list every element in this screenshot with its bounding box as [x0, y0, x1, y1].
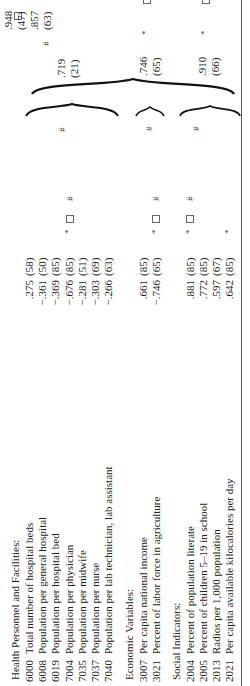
row-r: .661 — [137, 280, 150, 314]
row-n: (85) — [197, 258, 210, 276]
box-marker-icon — [186, 215, 194, 223]
hash-marker: # — [184, 197, 197, 202]
row-r: −.369 — [49, 280, 62, 314]
section-title-health: Health Personnel and Facilities: — [9, 540, 22, 680]
row-label: Population per lab technician, lab assis… — [102, 466, 115, 654]
row-n: (65) — [150, 258, 163, 276]
final-n1: (47) — [15, 12, 28, 30]
row-label: Total number of hospital beds — [23, 523, 36, 654]
box-marker-icon — [152, 215, 160, 223]
row-n: (67) — [210, 258, 223, 276]
row-r: −.361 — [36, 280, 49, 314]
row-n: (50) — [36, 258, 49, 276]
hash-marker: # — [64, 197, 77, 202]
row-code: 6008 — [36, 660, 49, 686]
row-code: 2004 — [184, 660, 197, 686]
row-label: Per capita national income — [137, 537, 150, 654]
row-label: Percent of labor force in agriculture — [150, 497, 163, 654]
row-r: −.746 — [150, 280, 163, 314]
row-n: (63) — [102, 258, 115, 276]
row-code: 7004 — [63, 660, 76, 686]
brace-health — [24, 98, 120, 118]
significance-star: * — [183, 230, 196, 235]
row-r: .642 — [223, 280, 236, 314]
row-n: (85) — [137, 258, 150, 276]
row-code: 2021 — [223, 660, 236, 686]
row-label: Population per general hospital — [36, 517, 49, 654]
hash-marker: # — [190, 127, 203, 132]
row-r: −.676 — [63, 280, 76, 314]
row-label: Population per nurse — [89, 563, 102, 654]
row-n: (85) — [63, 258, 76, 276]
row-n: (85) — [223, 258, 236, 276]
significance-star: * — [139, 31, 152, 36]
row-r: −.266 — [102, 280, 115, 314]
row-label: Per capita available kilocalories per da… — [223, 478, 236, 654]
row-label: Population per physician — [63, 545, 76, 654]
brace-overall — [30, 74, 236, 96]
row-code: 6019 — [49, 660, 62, 686]
row-n: (58) — [23, 258, 36, 276]
row-code: 2005 — [197, 660, 210, 686]
box-marker-icon — [143, 0, 151, 4]
brace-social — [178, 100, 242, 118]
row-r: .597 — [210, 280, 223, 314]
table-bottom-rule — [241, 0, 242, 686]
row-code: 3007 — [137, 660, 150, 686]
row-code: 6000 — [23, 660, 36, 686]
row-n: (51) — [76, 258, 89, 276]
row-r: .275 — [23, 280, 36, 314]
section-title-economic: Economic Variables: — [123, 589, 136, 680]
row-r: .772 — [197, 280, 210, 314]
row-r: .881 — [184, 280, 197, 314]
final-n2: (63) — [41, 12, 54, 30]
significance-star: * — [222, 230, 235, 235]
row-n: (85) — [184, 258, 197, 276]
row-label: Percent of population literate — [184, 526, 197, 654]
box-marker-icon — [66, 215, 74, 223]
row-r: −.303 — [89, 280, 102, 314]
row-label: Percent of children 5–19 in school — [197, 503, 210, 654]
final-r2: .857 — [28, 11, 41, 30]
row-r: −.281 — [76, 280, 89, 314]
row-label: Radios per 1,000 population — [210, 529, 223, 654]
row-code: 7037 — [89, 660, 102, 686]
row-code: 3021 — [150, 660, 163, 686]
row-n: (85) — [49, 258, 62, 276]
hash-marker: # — [150, 197, 163, 202]
row-code: 7040 — [102, 660, 115, 686]
hash-marker: # — [143, 127, 156, 132]
hash-marker: # — [56, 128, 69, 133]
row-label: Population per midwife — [76, 550, 89, 654]
row-n: (69) — [89, 258, 102, 276]
hash-marker: # — [40, 42, 53, 47]
row-label: Population per hospital bed — [49, 533, 62, 654]
final-r1: .948 — [2, 11, 15, 30]
significance-star: * — [198, 31, 211, 36]
rotated-table-page: Health Personnel and Facilities: 6000 To… — [0, 0, 250, 686]
row-code: 2013 — [210, 660, 223, 686]
box-marker-icon — [202, 0, 210, 4]
significance-star: * — [149, 230, 162, 235]
row-code: 7035 — [76, 660, 89, 686]
brace-economic — [134, 102, 166, 118]
section-title-social: Social Indicators: — [170, 603, 183, 680]
significance-star: * — [62, 230, 75, 235]
